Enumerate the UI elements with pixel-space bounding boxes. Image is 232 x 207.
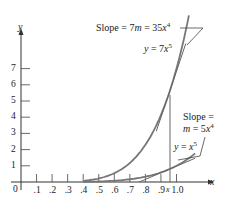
tangent-line-7x5 xyxy=(156,44,186,132)
x-tick-label: .3 xyxy=(65,186,72,196)
annotation-curve-x5: y = x5 xyxy=(174,142,197,152)
x-tick-label: .2 xyxy=(49,186,56,196)
tangent-line-x5 xyxy=(139,158,195,182)
x-tick-label: .4 xyxy=(80,186,87,196)
annotation-curve-7x5: y = 7x5 xyxy=(144,44,172,54)
x-tick-label: .7 xyxy=(127,186,134,196)
y-tick-label: 4 xyxy=(11,112,16,122)
y-tick-label: 3 xyxy=(11,128,16,138)
y-tick-label: 6 xyxy=(11,80,16,90)
x-axis-label: x xyxy=(210,177,214,187)
y-tick-label: 2 xyxy=(11,145,16,155)
curve-7x5 xyxy=(83,15,189,180)
x-tick-label: .8 xyxy=(142,186,149,196)
annotation-slope-7x5: Slope = 7m = 35x4 xyxy=(96,23,170,33)
x-tick-label: 1.0 xyxy=(172,186,184,196)
x-tick-label: .6 xyxy=(111,186,118,196)
y-tick-label: 5 xyxy=(11,96,16,106)
y-tick-label: 7 xyxy=(11,64,16,74)
x-tick-label: .9 xyxy=(158,186,165,196)
marked-x-label: x xyxy=(166,186,170,194)
annotation-slope-x5-line1: Slope = xyxy=(183,112,214,122)
x-tick-label: .5 xyxy=(96,186,103,196)
y-axis-label: y xyxy=(18,22,22,32)
y-ticks xyxy=(21,69,30,166)
y-tick-label: 1 xyxy=(11,161,16,171)
origin-label: 0 xyxy=(13,185,18,195)
annotation-slope-x5-line2: m = 5x4 xyxy=(183,124,214,134)
x-tick-label: .1 xyxy=(34,186,41,196)
